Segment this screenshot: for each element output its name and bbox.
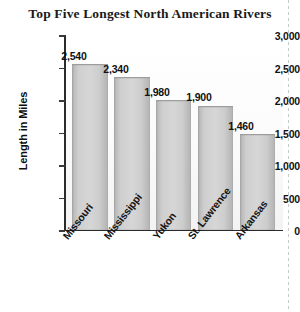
y-tick-label: 2,000 bbox=[242, 95, 300, 107]
bar-value-label: 1,900 bbox=[177, 91, 221, 103]
bar-yukon bbox=[156, 100, 191, 230]
y-tick-mark bbox=[59, 165, 65, 167]
bar-value-label: 1,980 bbox=[135, 86, 179, 98]
chart-title: Top Five Longest North American Rivers bbox=[0, 6, 300, 22]
y-tick-mark bbox=[59, 133, 65, 135]
y-tick-mark bbox=[59, 100, 65, 102]
bar-value-label: 2,340 bbox=[94, 63, 138, 75]
chart-page: Top Five Longest North American Rivers L… bbox=[0, 0, 300, 312]
y-axis-title: Length in Miles bbox=[17, 71, 29, 191]
y-tick-mark bbox=[59, 35, 65, 37]
page-edge-line bbox=[288, 0, 289, 312]
y-tick-label: 1,000 bbox=[242, 160, 300, 172]
y-tick-label: 3,000 bbox=[242, 30, 300, 42]
y-tick-mark bbox=[59, 198, 65, 200]
y-tick-mark bbox=[59, 68, 65, 70]
y-tick-label: 500 bbox=[242, 193, 300, 205]
y-tick-label: 2,500 bbox=[242, 63, 300, 75]
bar-value-label: 1,460 bbox=[219, 120, 263, 132]
bar-value-label: 2,540 bbox=[52, 50, 96, 62]
